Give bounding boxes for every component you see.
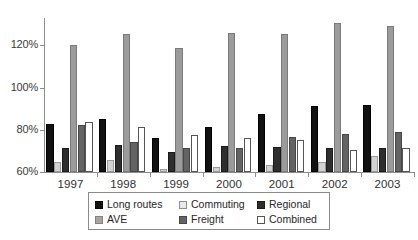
x-axis-line bbox=[44, 172, 414, 173]
bar-combined-2003 bbox=[402, 148, 409, 172]
x-category-label-2000: 2000 bbox=[203, 178, 256, 190]
bar-regional-2002 bbox=[326, 148, 333, 172]
bar-ave-2001 bbox=[281, 34, 288, 172]
x-category-label-1998: 1998 bbox=[97, 178, 150, 190]
bar-freight-1997 bbox=[78, 125, 85, 172]
bar-freight-2003 bbox=[395, 132, 402, 172]
bar-chart: 60%80%100%120% 1997199819992000200120022… bbox=[0, 0, 418, 240]
legend-item-regional[interactable]: Regional bbox=[257, 199, 327, 210]
bar-ave-1997 bbox=[70, 45, 77, 172]
legend-label: Combined bbox=[269, 214, 317, 225]
legend-label: Freight bbox=[191, 214, 224, 225]
bar-long-routes-2000 bbox=[205, 127, 212, 172]
bar-ave-2003 bbox=[387, 26, 394, 172]
x-category-label-1997: 1997 bbox=[44, 178, 97, 190]
y-tick-mark bbox=[40, 130, 45, 131]
bar-commuting-2000 bbox=[213, 167, 220, 172]
legend-swatch-icon bbox=[95, 201, 103, 209]
x-tick-mark bbox=[308, 172, 309, 177]
bar-regional-1999 bbox=[168, 152, 175, 172]
x-tick-mark bbox=[361, 172, 362, 177]
bar-combined-2002 bbox=[350, 150, 357, 172]
legend-grid: Long routesCommutingRegionalAVEFreightCo… bbox=[95, 197, 325, 227]
y-tick-label: 100% bbox=[0, 82, 38, 93]
legend-label: AVE bbox=[107, 214, 127, 225]
legend-swatch-icon bbox=[179, 201, 187, 209]
bar-commuting-2003 bbox=[371, 156, 378, 172]
bar-freight-2002 bbox=[342, 134, 349, 172]
y-tick-mark bbox=[40, 172, 45, 173]
bar-regional-2001 bbox=[273, 147, 280, 172]
bar-combined-2000 bbox=[244, 138, 251, 172]
x-tick-mark bbox=[255, 172, 256, 177]
bar-regional-1997 bbox=[62, 148, 69, 172]
legend-swatch-icon bbox=[257, 216, 265, 224]
x-category-label-1999: 1999 bbox=[150, 178, 203, 190]
plot-area: 60%80%100%120% 1997199819992000200120022… bbox=[0, 0, 418, 182]
bar-long-routes-2003 bbox=[363, 105, 370, 172]
x-tick-mark bbox=[414, 172, 415, 177]
bar-freight-2001 bbox=[289, 137, 296, 172]
bar-long-routes-1997 bbox=[46, 124, 53, 172]
bar-long-routes-1998 bbox=[99, 119, 106, 172]
legend-item-long-routes[interactable]: Long routes bbox=[95, 199, 179, 210]
bar-commuting-1998 bbox=[107, 160, 114, 172]
chart-legend: Long routesCommutingRegionalAVEFreightCo… bbox=[88, 192, 330, 230]
bar-ave-2000 bbox=[228, 33, 235, 172]
legend-label: Commuting bbox=[191, 199, 245, 210]
bar-ave-1999 bbox=[175, 48, 182, 172]
x-tick-mark bbox=[203, 172, 204, 177]
legend-item-combined[interactable]: Combined bbox=[257, 214, 327, 225]
bar-ave-2002 bbox=[334, 23, 341, 172]
bar-commuting-2001 bbox=[266, 165, 273, 172]
legend-item-freight[interactable]: Freight bbox=[179, 214, 257, 225]
legend-swatch-icon bbox=[95, 216, 103, 224]
bar-long-routes-2001 bbox=[258, 114, 265, 172]
bar-combined-1999 bbox=[191, 135, 198, 172]
x-category-label-2001: 2001 bbox=[255, 178, 308, 190]
legend-item-ave[interactable]: AVE bbox=[95, 214, 179, 225]
y-axis-line bbox=[44, 18, 45, 173]
bar-regional-1998 bbox=[115, 145, 122, 172]
y-tick-mark bbox=[40, 88, 45, 89]
legend-label: Regional bbox=[269, 199, 310, 210]
y-tick-label: 120% bbox=[0, 39, 38, 50]
x-category-label-2003: 2003 bbox=[361, 178, 414, 190]
legend-swatch-icon bbox=[257, 201, 265, 209]
bar-commuting-2002 bbox=[318, 162, 325, 172]
y-tick-label: 80% bbox=[0, 124, 38, 135]
legend-swatch-icon bbox=[179, 216, 187, 224]
x-tick-mark bbox=[150, 172, 151, 177]
bar-ave-1998 bbox=[123, 34, 130, 172]
bar-freight-1998 bbox=[130, 142, 137, 172]
y-tick-mark bbox=[40, 45, 45, 46]
bar-regional-2000 bbox=[221, 146, 228, 172]
bar-freight-1999 bbox=[183, 148, 190, 172]
y-tick-label: 60% bbox=[0, 166, 38, 177]
bar-long-routes-1999 bbox=[152, 138, 159, 172]
bar-long-routes-2002 bbox=[311, 106, 318, 172]
x-category-label-2002: 2002 bbox=[308, 178, 361, 190]
legend-label: Long routes bbox=[107, 199, 162, 210]
bar-commuting-1999 bbox=[160, 169, 167, 172]
bar-regional-2003 bbox=[379, 148, 386, 172]
bar-combined-2001 bbox=[297, 140, 304, 172]
bar-freight-2000 bbox=[236, 148, 243, 172]
x-tick-mark bbox=[97, 172, 98, 177]
bar-commuting-1997 bbox=[54, 162, 61, 172]
bar-combined-1998 bbox=[138, 127, 145, 172]
legend-item-commuting[interactable]: Commuting bbox=[179, 199, 257, 210]
bar-combined-1997 bbox=[85, 122, 92, 172]
